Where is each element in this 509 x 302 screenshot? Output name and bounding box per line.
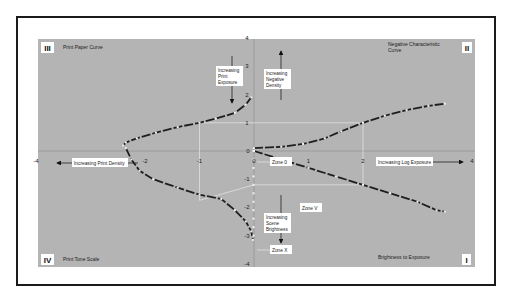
curve-marker	[335, 175, 337, 177]
curve-marker	[324, 137, 326, 139]
curve-marker	[220, 198, 222, 200]
curve-marker	[302, 143, 304, 145]
zone-point	[253, 192, 255, 194]
curve-marker	[384, 115, 386, 117]
curve-marker	[389, 192, 391, 194]
curve-marker	[215, 118, 217, 120]
curve-marker	[125, 142, 127, 144]
zone-x-label: Zone X	[272, 248, 288, 253]
quadrant-iii-badge: III	[41, 42, 54, 53]
curve-marker	[252, 239, 254, 241]
curve-marker	[362, 122, 364, 124]
curve-marker	[253, 147, 255, 149]
zone-point	[253, 209, 255, 211]
curve-marker	[340, 130, 342, 132]
y-tick-label: -3	[244, 233, 250, 239]
quadrant-iii-numeral: III	[44, 44, 51, 53]
quadrant-iv-title: Print Tone Scale	[63, 256, 100, 262]
curve-marker	[444, 211, 446, 213]
print-density-label: Increasing Print Density	[74, 161, 125, 166]
plot-area	[38, 39, 475, 267]
curve-marker	[427, 105, 429, 107]
curve-marker	[122, 144, 124, 146]
quadrant-i-numeral: I	[465, 256, 467, 265]
zone-point	[253, 235, 255, 237]
curve-marker	[139, 170, 141, 172]
x-tick-label: -1	[197, 158, 203, 164]
curve-marker	[234, 112, 236, 114]
zone-v-label: Zone V	[302, 206, 318, 211]
x-tick-label: -4	[33, 158, 39, 164]
curve-marker	[417, 201, 419, 203]
zone-point	[253, 201, 255, 203]
zone-point	[253, 150, 255, 152]
curve-marker	[280, 146, 282, 148]
curve-marker	[177, 187, 179, 189]
quadrant-iv-numeral: IV	[44, 256, 52, 265]
curve-marker	[136, 137, 138, 139]
quadrant-ii-numeral: II	[465, 44, 469, 53]
curve-marker	[234, 209, 236, 211]
y-tick-label: -1	[244, 176, 250, 182]
curve-marker	[362, 184, 364, 186]
curve-marker	[250, 230, 252, 232]
curve-marker	[308, 167, 310, 169]
curve-marker	[436, 209, 438, 211]
quadrant-iv-badge: IV	[41, 254, 54, 265]
curve-marker	[177, 126, 179, 128]
log-exposure-label: Increasing Log Exposure	[378, 160, 431, 165]
curve-marker	[250, 96, 252, 98]
curve-marker	[155, 132, 157, 134]
curve-marker	[444, 103, 446, 105]
curve-marker	[125, 147, 127, 149]
quadrant-ii-badge: II	[462, 42, 472, 53]
zone-point	[253, 184, 255, 186]
quadrant-i-title: Brightness to Exposure	[378, 254, 430, 260]
curve-marker	[406, 109, 408, 111]
zone-point	[253, 218, 255, 220]
zone-point	[253, 175, 255, 177]
x-tick-label: -2	[142, 158, 148, 164]
curve-marker	[245, 221, 247, 223]
curve-marker	[152, 178, 154, 180]
zone-point	[253, 226, 255, 228]
curve-marker	[130, 158, 132, 160]
y-tick-label: -4	[244, 261, 250, 267]
quadrant-i-badge: I	[462, 254, 471, 265]
quadrant-ii-title-line2: Curve	[388, 47, 402, 53]
quadrant-iii-title: Print Paper Curve	[63, 44, 103, 50]
curve-marker	[199, 122, 201, 124]
tone-reproduction-diagram: -4-2-101244321-1-2-3-40 III Print Paper …	[0, 0, 509, 302]
curve-marker	[199, 194, 201, 196]
curve-marker	[245, 103, 247, 105]
zone-point	[253, 167, 255, 169]
y-tick-label: -2	[244, 204, 250, 210]
zone-0-label: Zone 0	[272, 160, 287, 165]
